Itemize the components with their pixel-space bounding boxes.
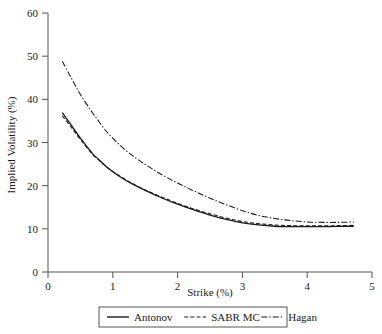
x-tick-label: 1 <box>110 280 116 292</box>
y-tick-label: 30 <box>27 137 39 149</box>
legend-label-sabr-mc: SABR MC <box>211 311 260 323</box>
y-tick-label: 40 <box>27 93 39 105</box>
chart-legend: AntonovSABR MCHagan <box>99 307 318 327</box>
y-tick-label: 20 <box>27 180 39 192</box>
x-tick-label: 0 <box>45 280 51 292</box>
x-tick-label: 4 <box>304 280 310 292</box>
x-tick-label: 2 <box>175 280 181 292</box>
x-tick-label: 3 <box>240 280 246 292</box>
legend-label-antonov: Antonov <box>134 311 173 323</box>
y-tick-label: 10 <box>27 223 39 235</box>
y-tick-label: 50 <box>27 50 39 62</box>
y-axis-title: Implied Volatility (%) <box>5 96 18 193</box>
implied-volatility-chart: 0102030405060 012345 Strike (%) Implied … <box>0 0 382 334</box>
x-axis-title: Strike (%) <box>187 286 233 299</box>
legend-label-hagan: Hagan <box>288 311 317 323</box>
x-tick-label: 5 <box>369 280 375 292</box>
y-tick-label: 0 <box>33 266 39 278</box>
y-tick-label: 60 <box>27 7 39 19</box>
chart-figure: 0102030405060 012345 Strike (%) Implied … <box>0 0 382 334</box>
chart-background <box>0 0 382 334</box>
